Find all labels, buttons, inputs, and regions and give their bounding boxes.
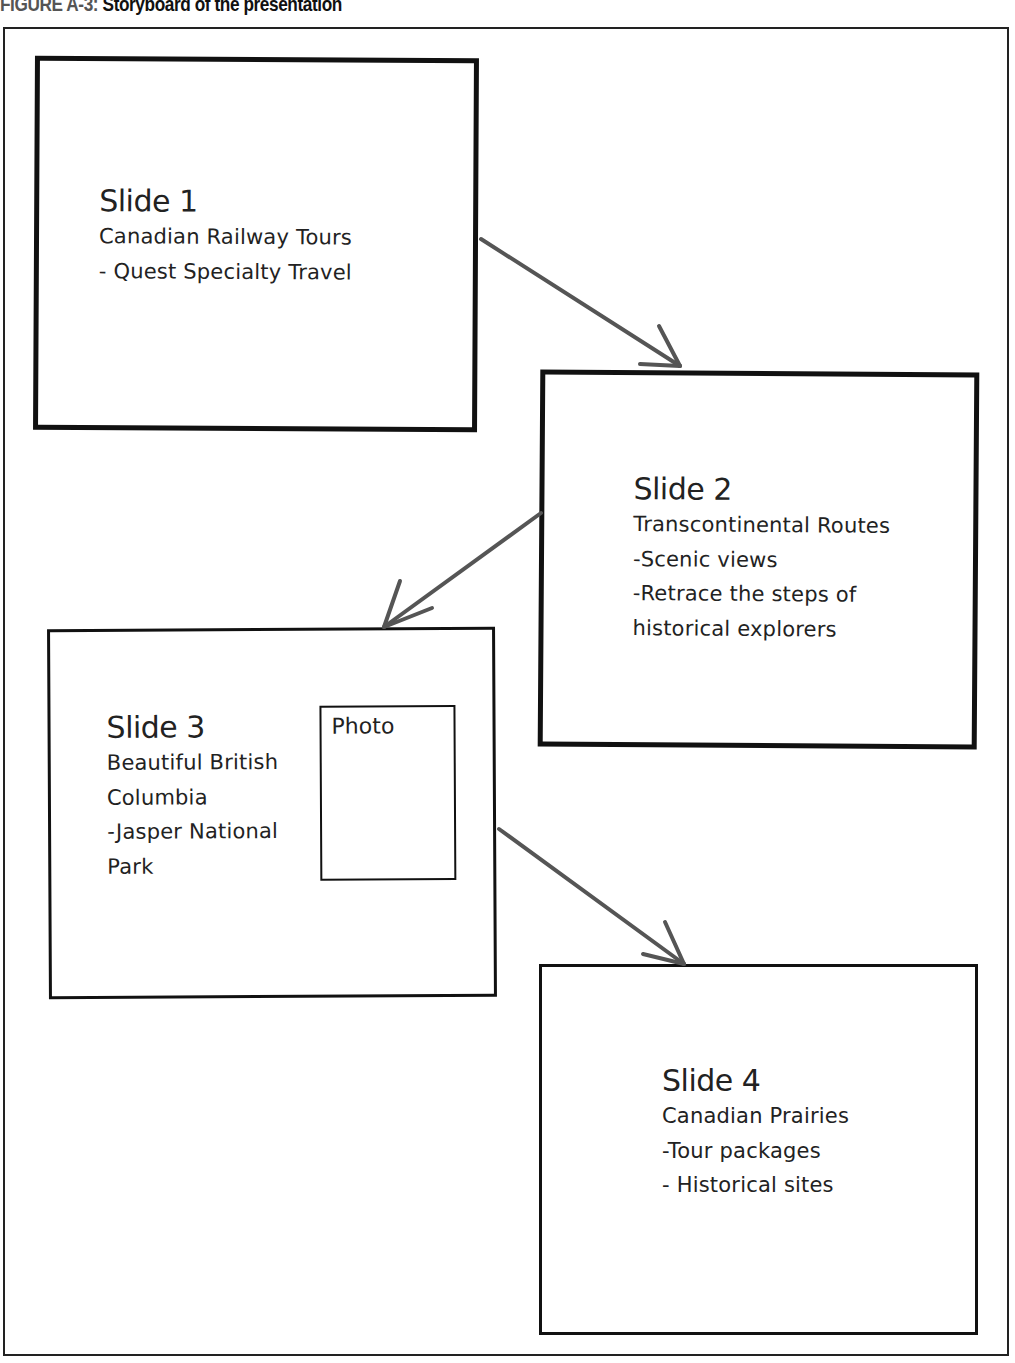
figure-title: Storyboard of the presentation <box>98 0 342 15</box>
slide-2-line: historical explorers <box>632 611 889 647</box>
slide-1-title: Slide 1 <box>99 183 352 220</box>
slide-2-title: Slide 2 <box>633 471 890 509</box>
slide-4-line: -Tour packages <box>662 1134 849 1169</box>
slide-2-line: -Retrace the steps of <box>633 576 890 612</box>
slide-3-box: Slide 3 Beautiful British Columbia -Jasp… <box>47 627 497 999</box>
slide-1-line: - Quest Specialty Travel <box>99 254 352 290</box>
slide-4-title: Slide 4 <box>662 1063 849 1099</box>
slide-1-box: Slide 1 Canadian Railway Tours - Quest S… <box>33 56 479 432</box>
slide-3-line: -Jasper National <box>107 814 279 849</box>
slide-3-title: Slide 3 <box>106 709 278 746</box>
slide-3-line: Columbia <box>107 779 279 814</box>
slide-3-line: Park <box>107 848 279 883</box>
slide-2-line: Transcontinental Routes <box>633 507 890 543</box>
slide-2-line: -Scenic views <box>633 542 890 578</box>
slide-4-line: Canadian Prairies <box>662 1099 849 1134</box>
slide-1-line: Canadian Railway Tours <box>99 219 352 255</box>
figure-caption: FIGURE A-3: Storyboard of the presentati… <box>0 0 342 16</box>
photo-label: Photo <box>331 713 394 738</box>
slide-2-box: Slide 2 Transcontinental Routes -Scenic … <box>538 369 980 749</box>
figure-label: FIGURE A-3: <box>0 0 98 15</box>
slide-4-box: Slide 4 Canadian Prairies -Tour packages… <box>539 964 978 1335</box>
photo-placeholder: Photo <box>319 705 456 881</box>
slide-3-line: Beautiful British <box>107 745 279 780</box>
slide-4-line: - Historical sites <box>662 1168 849 1203</box>
